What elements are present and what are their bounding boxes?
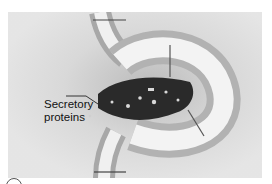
vesicle-fusion-illustration bbox=[8, 12, 262, 178]
label-secretory-proteins: Secretory proteins bbox=[44, 98, 93, 123]
panel-marker-icon bbox=[6, 178, 22, 184]
label-line-1: Secretory bbox=[44, 98, 93, 111]
label-line-2: proteins bbox=[44, 111, 93, 124]
illustration-panel: Secretory proteins bbox=[8, 12, 262, 178]
